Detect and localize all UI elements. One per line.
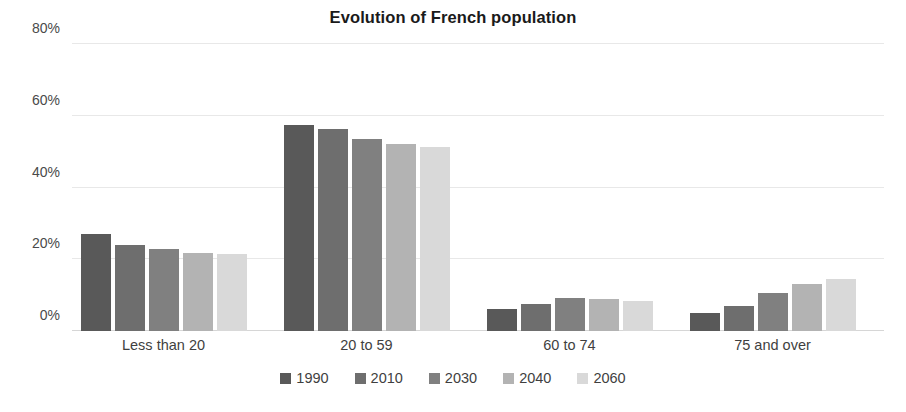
chart-container: Evolution of French population 0%20%40%6…: [0, 0, 906, 412]
bar[interactable]: [487, 309, 517, 331]
legend-swatch-icon: [577, 373, 588, 384]
bar[interactable]: [284, 125, 314, 331]
plot-area: 0%20%40%60%80% Less than 2020 to 5960 to…: [72, 44, 884, 331]
legend-swatch-icon: [503, 373, 514, 384]
bar[interactable]: [318, 129, 348, 331]
legend-item[interactable]: 2060: [577, 370, 625, 386]
bars-row: [81, 44, 247, 331]
bar[interactable]: [149, 249, 179, 331]
bars-row: [690, 44, 856, 331]
bar-group: 75 and over: [690, 44, 856, 331]
bar[interactable]: [758, 293, 788, 331]
chart-title: Evolution of French population: [0, 8, 906, 27]
y-axis-tick-label: 60%: [0, 92, 60, 108]
bar[interactable]: [521, 304, 551, 331]
x-axis-category-label: 20 to 59: [284, 337, 450, 353]
legend-label: 2060: [593, 370, 625, 386]
y-axis-tick-label: 40%: [0, 164, 60, 180]
x-axis-category-label: 60 to 74: [487, 337, 653, 353]
bars-row: [487, 44, 653, 331]
bar[interactable]: [183, 253, 213, 331]
bar[interactable]: [386, 144, 416, 331]
legend-item[interactable]: 2010: [355, 370, 403, 386]
bar[interactable]: [826, 279, 856, 331]
bar[interactable]: [420, 147, 450, 331]
legend-label: 2030: [445, 370, 477, 386]
x-axis-category-label: 75 and over: [690, 337, 856, 353]
legend-label: 2010: [371, 370, 403, 386]
bar[interactable]: [589, 299, 619, 331]
bar[interactable]: [623, 301, 653, 331]
legend-label: 1990: [296, 370, 328, 386]
bar[interactable]: [81, 234, 111, 331]
legend-swatch-icon: [355, 373, 366, 384]
legend-item[interactable]: 2030: [429, 370, 477, 386]
y-axis-tick-label: 0%: [0, 307, 60, 323]
x-axis-category-label: Less than 20: [81, 337, 247, 353]
bar[interactable]: [115, 245, 145, 331]
bar[interactable]: [217, 254, 247, 331]
legend-item[interactable]: 2040: [503, 370, 551, 386]
bar[interactable]: [352, 139, 382, 331]
legend-swatch-icon: [429, 373, 440, 384]
bar-group: 60 to 74: [487, 44, 653, 331]
bar[interactable]: [690, 313, 720, 331]
legend-label: 2040: [519, 370, 551, 386]
bar-group: Less than 20: [81, 44, 247, 331]
bars-row: [284, 44, 450, 331]
legend-swatch-icon: [280, 373, 291, 384]
bar-group: 20 to 59: [284, 44, 450, 331]
chart-legend: 19902010203020402060: [0, 370, 906, 386]
bar[interactable]: [792, 284, 822, 331]
y-axis-tick-label: 80%: [0, 20, 60, 36]
y-axis-tick-label: 20%: [0, 235, 60, 251]
bar[interactable]: [555, 298, 585, 331]
legend-item[interactable]: 1990: [280, 370, 328, 386]
bar[interactable]: [724, 306, 754, 331]
